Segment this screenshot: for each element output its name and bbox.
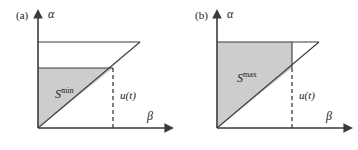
control-label-ut: u(t)	[299, 89, 315, 102]
region-label-smax-superscript: max	[243, 70, 257, 79]
panel-a: (a) α β Smin u(t)	[0, 0, 179, 150]
panel-tag-label: (b)	[195, 9, 208, 22]
figure-root: (a) α β Smin u(t)	[0, 0, 358, 150]
x-axis-label: β	[325, 109, 332, 123]
panel-a-diagram: (a) α β Smin u(t)	[0, 0, 179, 150]
panel-b: (b) α β Smax u(t)	[179, 0, 358, 150]
panel-b-diagram: (b) α β Smax u(t)	[179, 0, 358, 150]
panel-tag-label: (a)	[16, 9, 29, 22]
x-axis-label: β	[146, 109, 153, 123]
y-axis-label: α	[48, 7, 55, 21]
region-label-smin-superscript: min	[61, 86, 73, 95]
control-label-ut: u(t)	[120, 89, 136, 102]
shaded-region-smax	[217, 42, 292, 128]
y-axis-label: α	[227, 7, 234, 21]
